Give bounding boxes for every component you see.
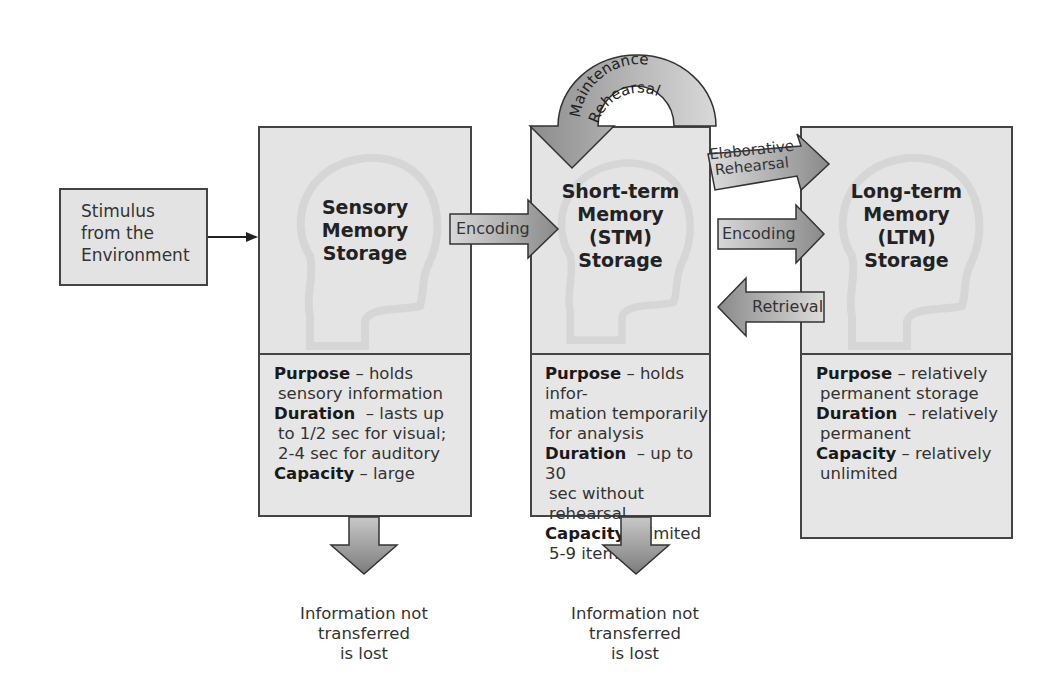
duration-label: Duration xyxy=(274,404,355,423)
retrieval-label: Retrieval xyxy=(752,297,823,316)
lost-line: Information not xyxy=(279,604,449,624)
purpose-label: Purpose xyxy=(274,364,350,383)
sensory-memory-box: Sensory Memory Storage Purpose – holds s… xyxy=(258,126,472,517)
ltm-header: Long-term Memory (LTM) Storage xyxy=(802,128,1011,355)
purpose-text: for analysis xyxy=(545,424,709,444)
capacity-text: – large xyxy=(360,464,415,483)
ltm-description: Purpose – relatively permanent storage D… xyxy=(816,364,1005,484)
encoding-label-1: Encoding xyxy=(456,219,530,238)
title-line: Memory xyxy=(260,219,470,242)
stm-lost-text: Information not transferred is lost xyxy=(550,604,720,664)
lost-line: is lost xyxy=(279,644,449,664)
duration-text: – relatively xyxy=(908,404,998,423)
ltm-box: Long-term Memory (LTM) Storage Purpose –… xyxy=(800,126,1013,539)
stimulus-arrow-icon xyxy=(208,230,260,244)
duration-label: Duration xyxy=(545,444,626,463)
lost-line: Information not xyxy=(550,604,720,624)
purpose-text: sensory information xyxy=(274,384,464,404)
stimulus-box: Stimulus from the Environment xyxy=(59,188,208,286)
stimulus-line: Environment xyxy=(81,244,206,266)
stimulus-line: from the xyxy=(81,222,206,244)
capacity-text: unlimited xyxy=(816,464,1005,484)
title-line: Storage xyxy=(532,249,709,272)
capacity-label: Capacity xyxy=(816,444,896,463)
purpose-text: – relatively xyxy=(897,364,987,383)
ltm-title: Long-term Memory (LTM) Storage xyxy=(802,180,1011,272)
lost-down-arrow-icon xyxy=(329,517,399,577)
lost-line: transferred xyxy=(279,624,449,644)
duration-label: Duration xyxy=(816,404,897,423)
sensory-memory-header: Sensory Memory Storage xyxy=(260,128,470,355)
title-line: (LTM) xyxy=(802,226,1011,249)
duration-text: – lasts up xyxy=(366,404,444,423)
purpose-label: Purpose xyxy=(816,364,892,383)
purpose-label: Purpose xyxy=(545,364,621,383)
purpose-text: permanent storage xyxy=(816,384,1005,404)
sensory-lost-text: Information not transferred is lost xyxy=(279,604,449,664)
maintenance-rehearsal-arrow-icon: Maintenance Rehearsal xyxy=(530,40,720,190)
title-line: Memory xyxy=(532,203,709,226)
sensory-description: Purpose – holds sensory information Dura… xyxy=(274,364,464,484)
capacity-label: Capacity xyxy=(274,464,354,483)
capacity-text: – relatively xyxy=(902,444,992,463)
title-line: Memory xyxy=(802,203,1011,226)
sensory-title: Sensory Memory Storage xyxy=(260,196,470,265)
stm-title: Short-term Memory (STM) Storage xyxy=(532,180,709,272)
lost-line: is lost xyxy=(550,644,720,664)
title-line: Storage xyxy=(802,249,1011,272)
title-line: Storage xyxy=(260,242,470,265)
purpose-text: – holds xyxy=(355,364,413,383)
encoding-label-2: Encoding xyxy=(722,224,796,243)
lost-line: transferred xyxy=(550,624,720,644)
lost-down-arrow-icon xyxy=(601,517,671,577)
purpose-text: mation temporarily xyxy=(545,404,709,424)
stimulus-line: Stimulus xyxy=(81,200,206,222)
duration-text: to 1/2 sec for visual; xyxy=(274,424,464,444)
duration-text: 2-4 sec for auditory xyxy=(274,444,464,464)
title-line: Long-term xyxy=(802,180,1011,203)
title-line: Sensory xyxy=(260,196,470,219)
duration-text: permanent xyxy=(816,424,1005,444)
